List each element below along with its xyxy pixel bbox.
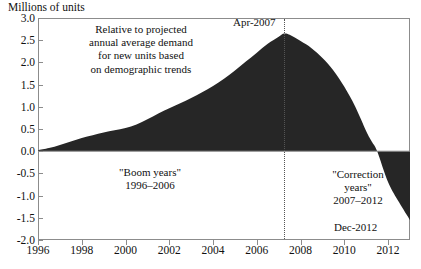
x-tick-label: 2008 bbox=[289, 244, 312, 256]
chart-figure: Millions of units 3.02.52.01.51.00.50.0-… bbox=[0, 0, 421, 269]
y-tick-mark bbox=[38, 62, 43, 63]
peak-marker-line bbox=[284, 19, 285, 239]
annotation-boom-years: "Boom years" 1996–2006 bbox=[90, 166, 210, 192]
x-tick-mark bbox=[344, 240, 345, 245]
annotation-description: Relative to projected annual average dem… bbox=[66, 23, 216, 76]
y-tick-mark bbox=[38, 40, 43, 41]
annotation-description-line-1: Relative to projected bbox=[66, 23, 216, 36]
x-tick-label: 2000 bbox=[114, 244, 137, 256]
y-tick-mark bbox=[38, 173, 43, 174]
x-tick-mark bbox=[126, 240, 127, 245]
x-tick-mark bbox=[82, 240, 83, 245]
y-tick-mark bbox=[38, 85, 43, 86]
y-tick-mark bbox=[38, 151, 43, 152]
y-tick-label: -1.5 bbox=[17, 212, 35, 224]
correction-years-title-line-2: years" bbox=[308, 181, 408, 194]
y-tick-label: 2.0 bbox=[21, 56, 35, 68]
y-tick-label: 1.5 bbox=[21, 79, 35, 91]
y-tick-label: 2.5 bbox=[21, 34, 35, 46]
x-tick-label: 2006 bbox=[245, 244, 268, 256]
x-tick-mark bbox=[169, 240, 170, 245]
x-tick-mark bbox=[388, 240, 389, 245]
annotation-description-line-2: annual average demand bbox=[66, 36, 216, 49]
y-tick-label: 0.0 bbox=[21, 145, 35, 157]
x-tick-label: 2010 bbox=[333, 244, 356, 256]
x-tick-mark bbox=[213, 240, 214, 245]
x-tick-mark bbox=[257, 240, 258, 245]
y-tick-mark bbox=[38, 129, 43, 130]
x-tick-label: 1998 bbox=[70, 244, 93, 256]
annotation-end-label: Dec-2012 bbox=[334, 221, 377, 234]
y-tick-mark bbox=[38, 18, 43, 19]
x-axis-ticks: 199619982000200220042006200820102012 bbox=[38, 242, 410, 264]
y-tick-label: 3.0 bbox=[21, 12, 35, 24]
x-tick-label: 2004 bbox=[202, 244, 225, 256]
y-tick-label: -1.0 bbox=[17, 190, 35, 202]
y-tick-label: 1.0 bbox=[21, 101, 35, 113]
x-tick-label: 1996 bbox=[27, 244, 50, 256]
annotation-correction-years: "Correction years" 2007–2012 bbox=[308, 168, 408, 208]
y-tick-mark bbox=[38, 107, 43, 108]
x-tick-label: 2002 bbox=[158, 244, 181, 256]
boom-years-title: "Boom years" bbox=[90, 166, 210, 179]
x-tick-mark bbox=[38, 240, 39, 245]
annotation-description-line-3: for new units based bbox=[66, 49, 216, 62]
x-tick-label: 2012 bbox=[377, 244, 400, 256]
boom-years-range: 1996–2006 bbox=[90, 179, 210, 192]
y-tick-label: -0.5 bbox=[17, 167, 35, 179]
y-tick-mark bbox=[38, 196, 43, 197]
y-axis-title: Millions of units bbox=[8, 1, 85, 13]
annotation-peak-label: Apr-2007 bbox=[233, 16, 276, 29]
y-axis-ticks: 3.02.52.01.51.00.50.0-0.5-1.0-1.5-2.0 bbox=[0, 18, 35, 240]
annotation-description-line-4: on demographic trends bbox=[66, 63, 216, 76]
x-tick-mark bbox=[301, 240, 302, 245]
correction-years-title-line-1: "Correction bbox=[308, 168, 408, 181]
correction-years-range: 2007–2012 bbox=[308, 194, 408, 207]
y-tick-mark bbox=[38, 218, 43, 219]
y-tick-label: 0.5 bbox=[21, 123, 35, 135]
